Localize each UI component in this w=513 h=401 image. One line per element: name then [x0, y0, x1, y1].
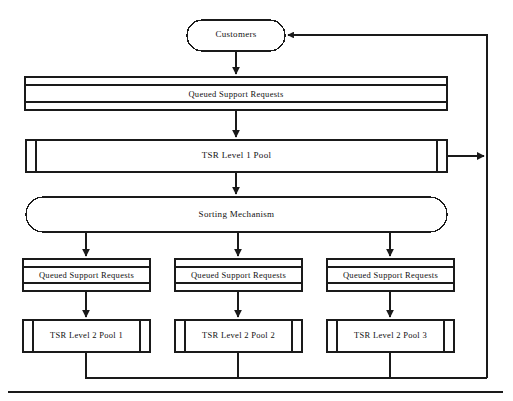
node-queue-1-label: Queued Support Requests — [23, 271, 150, 280]
node-queue-3-label: Queued Support Requests — [327, 271, 454, 280]
node-queue-2-label: Queued Support Requests — [175, 271, 302, 280]
diagram-canvas: Customers Queued Support Requests TSR Le… — [0, 0, 513, 401]
node-tsr-level2-pool-2-label: TSR Level 2 Pool 2 — [185, 331, 292, 340]
node-sorting-mechanism-label: Sorting Mechanism — [26, 210, 447, 219]
node-tsr-level1-pool-label: TSR Level 1 Pool — [36, 151, 437, 160]
node-queue-top-label: Queued Support Requests — [25, 90, 447, 99]
node-customers-label: Customers — [187, 30, 285, 39]
diagram-vector-layer — [0, 0, 513, 401]
node-tsr-level2-pool-1-label: TSR Level 2 Pool 1 — [33, 331, 140, 340]
node-tsr-level2-pool-3-label: TSR Level 2 Pool 3 — [337, 331, 444, 340]
